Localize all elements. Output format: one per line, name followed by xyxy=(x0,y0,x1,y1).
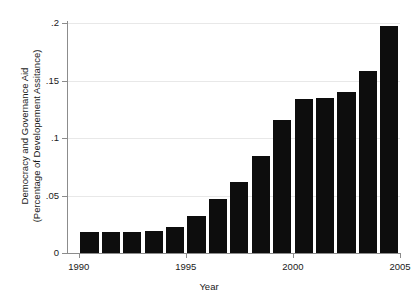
bar xyxy=(252,156,270,253)
bar xyxy=(102,232,120,253)
bar xyxy=(80,232,98,253)
y-tick-label: .15 xyxy=(46,76,59,86)
bar xyxy=(359,71,377,253)
x-tick-mark xyxy=(400,253,401,258)
x-tick-label: 2000 xyxy=(282,261,303,272)
plot-area xyxy=(68,23,400,253)
x-tick-label: 2005 xyxy=(389,261,410,272)
y-tick-mark xyxy=(62,23,67,24)
x-tick-label: 1995 xyxy=(175,261,196,272)
y-tick-mark xyxy=(62,81,67,82)
x-axis-title: Year xyxy=(0,281,418,292)
y-tick-mark xyxy=(62,196,67,197)
x-tick-mark xyxy=(293,253,294,258)
bar xyxy=(273,120,291,253)
bar-chart-figure: 0.05.1.15.2 1990199520002005 Year Democr… xyxy=(0,0,418,304)
bar xyxy=(295,99,313,253)
bar xyxy=(123,232,141,253)
bar xyxy=(187,216,205,253)
y-axis-title: Democracy and Governance Aid (Percentage… xyxy=(19,21,43,251)
x-axis-line xyxy=(62,253,401,254)
bar xyxy=(145,231,163,253)
bar xyxy=(337,92,355,253)
bar xyxy=(316,98,334,253)
x-tick-mark xyxy=(79,253,80,258)
bar xyxy=(209,199,227,253)
x-tick-label: 1990 xyxy=(68,261,89,272)
y-tick-mark xyxy=(62,253,67,254)
y-tick-label: .2 xyxy=(51,18,59,28)
y-tick-label: .1 xyxy=(51,133,59,143)
bar xyxy=(230,182,248,253)
x-tick-mark xyxy=(186,253,187,258)
y-tick-mark xyxy=(62,138,67,139)
y-tick-label: 0 xyxy=(54,248,59,258)
bar xyxy=(166,227,184,253)
bar xyxy=(380,26,398,253)
y-axis-title-line-2: (Percentage of Developement Assitance) xyxy=(31,21,43,251)
y-tick-label: .05 xyxy=(46,191,59,201)
y-axis-title-line-1: Democracy and Governance Aid xyxy=(19,21,31,251)
